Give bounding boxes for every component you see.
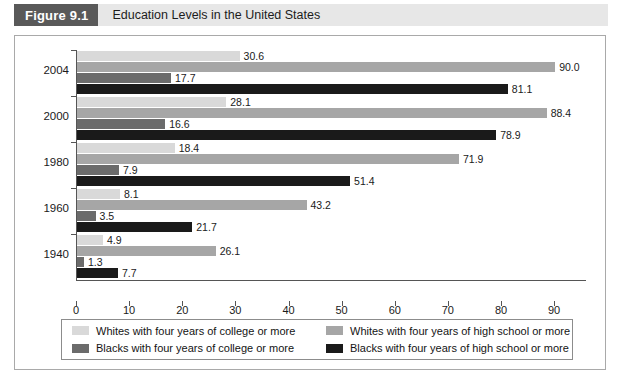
- bar-row: 26.1: [77, 246, 240, 256]
- bar: [77, 51, 240, 61]
- chart-frame: 200430.690.017.781.1200028.188.416.678.9…: [14, 35, 606, 370]
- bar-row: 21.7: [77, 222, 217, 232]
- bar-group: 200430.690.017.781.1: [77, 50, 598, 96]
- bar: [77, 189, 120, 199]
- bar: [77, 97, 226, 107]
- legend-label: Whites with four years of college or mor…: [96, 325, 295, 337]
- bar: [77, 211, 96, 221]
- legend-swatch-icon: [326, 326, 343, 335]
- bar-value-label: 26.1: [220, 246, 240, 257]
- y-axis-category-label: 2004: [19, 64, 69, 76]
- y-axis-category-label: 2000: [19, 110, 69, 122]
- bar-value-label: 17.7: [175, 73, 195, 84]
- bar: [77, 119, 165, 129]
- bar: [77, 130, 496, 140]
- bar-value-label: 78.9: [500, 130, 520, 141]
- bar: [77, 222, 192, 232]
- bar-row: 43.2: [77, 200, 331, 210]
- bar-row: 3.5: [77, 211, 114, 221]
- legend-label: Whites with four years of high school or…: [350, 325, 570, 337]
- bar: [77, 73, 171, 83]
- x-axis-tick-label: 80: [495, 304, 507, 316]
- bar-row: 8.1: [77, 189, 139, 199]
- bar: [77, 108, 547, 118]
- bar: [77, 200, 307, 210]
- x-axis-tick-label: 40: [282, 304, 294, 316]
- bar-row: 71.9: [77, 154, 483, 164]
- legend-item: Whites with four years of high school or…: [326, 325, 572, 337]
- legend-item: Whites with four years of college or mor…: [72, 325, 326, 337]
- legend-swatch-icon: [72, 326, 89, 335]
- bar-value-label: 71.9: [463, 154, 483, 165]
- bar-row: 30.6: [77, 51, 264, 61]
- bar-group: 19404.926.11.37.7: [77, 234, 598, 280]
- legend-label: Blacks with four years of college or mor…: [96, 342, 294, 354]
- bar-value-label: 3.5: [100, 211, 115, 222]
- bar-value-label: 16.6: [169, 119, 189, 130]
- bar: [77, 62, 555, 72]
- bar: [77, 257, 84, 267]
- bar-row: 1.3: [77, 257, 103, 267]
- bar-value-label: 51.4: [354, 176, 374, 187]
- bar-value-label: 7.9: [123, 165, 138, 176]
- y-axis-tick: [71, 142, 76, 143]
- bar-row: 90.0: [77, 62, 580, 72]
- bar-value-label: 88.4: [551, 108, 571, 119]
- bar-group: 200028.188.416.678.9: [77, 96, 598, 142]
- bar-value-label: 1.3: [88, 257, 103, 268]
- bar-row: 51.4: [77, 176, 375, 186]
- y-axis-category-label: 1940: [19, 248, 69, 260]
- bar-row: 7.9: [77, 165, 138, 175]
- page-title: Education Levels in the United States: [112, 8, 320, 22]
- bar-row: 17.7: [77, 73, 195, 83]
- legend-label: Blacks with four years of high school or…: [350, 342, 569, 354]
- bar-row: 4.9: [77, 235, 122, 245]
- plot-area: 200430.690.017.781.1200028.188.416.678.9…: [76, 50, 598, 280]
- bar-value-label: 18.4: [179, 143, 199, 154]
- bar: [77, 176, 350, 186]
- x-axis-tick-label: 30: [229, 304, 241, 316]
- bar-value-label: 90.0: [559, 62, 579, 73]
- bar-value-label: 4.9: [107, 235, 122, 246]
- bar-value-label: 81.1: [512, 84, 532, 95]
- bar: [77, 154, 459, 164]
- figure-number-badge: Figure 9.1: [14, 4, 98, 26]
- bar: [77, 84, 508, 94]
- y-axis-tick: [71, 188, 76, 189]
- bar-value-label: 30.6: [244, 51, 264, 62]
- figure-title-bar: Education Levels in the United States: [98, 4, 608, 26]
- x-axis-tick-labels: 0102030405060708090: [76, 304, 598, 320]
- x-axis-line: [76, 280, 586, 281]
- bar-row: 28.1: [77, 97, 251, 107]
- x-axis-tick-label: 60: [389, 304, 401, 316]
- x-axis-tick-label: 10: [123, 304, 135, 316]
- bar: [77, 246, 216, 256]
- bar-row: 81.1: [77, 84, 532, 94]
- bar: [77, 268, 118, 278]
- x-axis-tick-label: 20: [176, 304, 188, 316]
- bar: [77, 235, 103, 245]
- bar-group: 19608.143.23.521.7: [77, 188, 598, 234]
- x-axis-tick-label: 0: [73, 304, 79, 316]
- bar-value-label: 28.1: [230, 97, 250, 108]
- figure-header: Figure 9.1 Education Levels in the Unite…: [14, 4, 608, 26]
- bar-value-label: 7.7: [122, 268, 137, 279]
- bar-value-label: 43.2: [311, 200, 331, 211]
- y-axis-category-label: 1960: [19, 202, 69, 214]
- x-axis-tick-label: 90: [548, 304, 560, 316]
- bar-row: 78.9: [77, 130, 521, 140]
- y-axis-category-label: 1980: [19, 156, 69, 168]
- x-axis-tick-label: 70: [442, 304, 454, 316]
- bar-row: 18.4: [77, 143, 199, 153]
- legend-item: Blacks with four years of high school or…: [326, 342, 572, 354]
- bar-group: 198018.471.97.951.4: [77, 142, 598, 188]
- legend-item: Blacks with four years of college or mor…: [72, 342, 326, 354]
- y-axis-tick: [71, 50, 76, 51]
- bar-value-label: 8.1: [124, 189, 139, 200]
- y-axis-tick: [71, 234, 76, 235]
- legend-swatch-icon: [326, 344, 343, 353]
- legend-swatch-icon: [72, 344, 89, 353]
- bar-row: 16.6: [77, 119, 190, 129]
- bar: [77, 165, 119, 175]
- x-axis-tick-label: 50: [336, 304, 348, 316]
